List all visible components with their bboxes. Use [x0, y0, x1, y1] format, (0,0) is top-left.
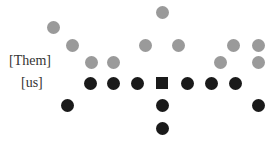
- them-player-dot: [139, 39, 152, 52]
- center-square-marker: [156, 77, 168, 89]
- them-label: [Them]: [9, 53, 51, 69]
- us-player-dot: [84, 77, 97, 90]
- us-player-dot: [205, 77, 218, 90]
- us-player-dot: [229, 77, 242, 90]
- them-player-dot: [252, 56, 265, 69]
- them-player-dot: [66, 39, 79, 52]
- us-label: [us]: [21, 75, 43, 91]
- them-player-dot: [107, 56, 120, 69]
- us-player-dot: [131, 77, 144, 90]
- us-player-dot: [181, 77, 194, 90]
- them-player-dot: [156, 6, 169, 19]
- us-player-dot: [156, 122, 169, 135]
- them-player-dot: [172, 39, 185, 52]
- us-player-dot: [252, 99, 265, 112]
- us-player-dot: [107, 77, 120, 90]
- them-player-dot: [252, 39, 265, 52]
- us-player-dot: [61, 99, 74, 112]
- them-player-dot: [85, 56, 98, 69]
- them-player-dot: [227, 39, 240, 52]
- them-player-dot: [47, 21, 60, 34]
- them-player-dot: [214, 56, 227, 69]
- us-player-dot: [156, 99, 169, 112]
